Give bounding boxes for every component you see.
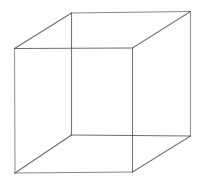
cube-drawing — [0, 0, 205, 186]
back-top-edge — [72, 12, 191, 14]
top-right-connector — [133, 12, 191, 49]
top-left-connector — [15, 13, 72, 49]
front-left-edge — [15, 49, 16, 174]
front-bottom-edge — [15, 172, 133, 173]
front-top-edge — [15, 48, 133, 49]
necker-cube-figure — [0, 0, 205, 186]
bottom-right-connector — [133, 136, 191, 172]
bottom-left-connector — [15, 135, 72, 173]
back-bottom-edge — [72, 135, 191, 136]
